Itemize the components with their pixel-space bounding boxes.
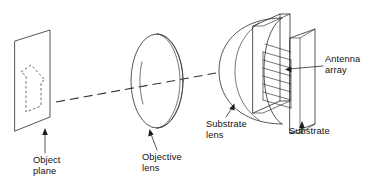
leader-line	[151, 134, 157, 150]
object-plane-leader	[42, 128, 48, 153]
optical-axis-ray	[56, 73, 216, 102]
object-plane-group	[15, 30, 50, 131]
label-substrate: Substrate	[289, 126, 330, 137]
figure-container: Object plane Objective lens Substrate le…	[0, 0, 372, 189]
leader-arrowhead	[148, 129, 153, 137]
object-outline-dashed	[21, 65, 45, 112]
leader-line	[289, 66, 323, 69]
antenna-line	[263, 60, 291, 68]
label-objective-lens: Objective lens	[142, 152, 182, 174]
substrate-lens-leader	[226, 104, 235, 118]
antenna-array-leader	[285, 66, 323, 72]
antenna-line	[263, 76, 291, 84]
objective-lens-group	[131, 34, 183, 128]
substrate-outer-slab	[290, 29, 315, 133]
antenna-line	[265, 44, 291, 52]
leader-arrowhead	[42, 128, 48, 135]
substrate-outer-front-face	[290, 29, 315, 133]
antenna-line	[263, 52, 291, 60]
label-substrate-lens: Substrate lens	[206, 119, 247, 141]
antenna-line	[263, 84, 291, 92]
objective-lens-rear-edge-inner	[157, 34, 180, 128]
substrate-inner-top-edge	[253, 14, 290, 26]
object-plane-panel	[15, 30, 50, 131]
objective-lens-highlight	[140, 62, 143, 104]
substrate-lens-inner-curve	[235, 23, 259, 120]
objective-lens-leader	[148, 129, 157, 150]
label-object-plane: Object plane	[33, 155, 60, 177]
label-antenna-array: Antenna array	[325, 54, 360, 76]
